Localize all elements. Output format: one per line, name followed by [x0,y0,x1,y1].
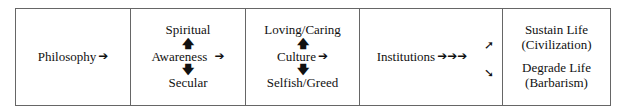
right-arrow-icon: ➔ [318,50,328,64]
loving-caring-label: Loving/Caring [264,23,341,38]
right-arrow-icon: ➔ [98,50,108,64]
up-right-arrow-icon: ➚ [484,39,494,53]
degrade-life-block: Degrade Life (Barbarism) [522,61,591,91]
sustain-life-label: Sustain Life [521,23,591,38]
culture-cell: Loving/Caring 🡅 Culture➔ 🡇 Selfish/Greed [246,9,360,105]
right-arrow-icon: ➔ [215,50,225,64]
down-right-arrow-icon: ➘ [484,67,494,81]
civilization-label: (Civilization) [521,38,591,53]
philosophy-label: Philosophy [38,50,97,65]
flow-diagram-table: Philosophy➔ Spiritual 🡅 Awareness ➔ 🡇 Se… [15,8,611,106]
outcomes-cell: Sustain Life (Civilization) Degrade Life… [503,9,610,105]
up-arrow-icon: 🡅 [182,38,194,50]
spiritual-label: Spiritual [166,23,211,38]
awareness-cell: Spiritual 🡅 Awareness ➔ 🡇 Secular [131,9,246,105]
institutions-cell: Institutions➔➔➔ ➚ ➘ [360,9,503,105]
barbarism-label: (Barbarism) [522,76,591,91]
secular-label: Secular [169,76,208,91]
culture-label: Culture [277,50,316,65]
selfish-greed-label: Selfish/Greed [267,76,338,91]
institutions-label: Institutions [377,50,436,65]
degrade-life-label: Degrade Life [522,61,591,76]
up-arrow-icon: 🡅 [297,38,309,50]
awareness-label: Awareness [151,50,207,65]
sustain-life-block: Sustain Life (Civilization) [521,23,591,53]
triple-right-arrow-icon: ➔➔➔ [437,50,467,64]
philosophy-cell: Philosophy➔ [16,9,131,105]
